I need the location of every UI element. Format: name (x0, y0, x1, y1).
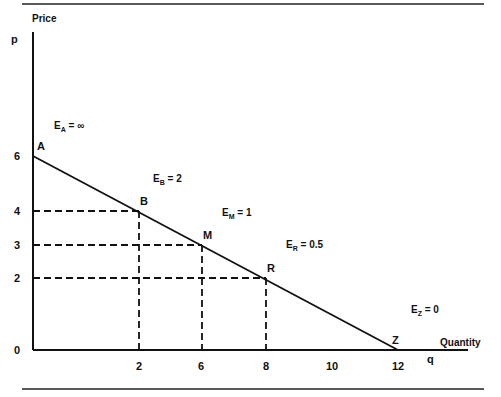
x-tick-label: 10 (326, 360, 338, 372)
demand-curve (33, 156, 398, 350)
y-axis-symbol: p (11, 33, 18, 45)
y-tick-label: 2 (14, 272, 20, 284)
elasticity-label-Z: EZ = 0 (411, 304, 439, 317)
point-label-R: R (267, 262, 275, 274)
x-axis-symbol: q (427, 353, 434, 365)
x-tick-label: 6 (198, 360, 204, 372)
elasticity-label-R: ER = 0.5 (286, 239, 323, 252)
elasticity-label-A: EA = ∞ (54, 120, 84, 133)
elasticity-label-B: EB = 2 (153, 173, 182, 186)
point-label-A: A (37, 140, 45, 152)
point-label-B: B (140, 195, 148, 207)
y-tick-label: 6 (14, 150, 20, 162)
x-tick-label: 12 (392, 360, 404, 372)
origin-label: 0 (14, 344, 20, 356)
point-label-Z: Z (392, 334, 399, 346)
y-axis-label: Price (32, 13, 57, 24)
y-tick-label: 4 (14, 205, 21, 217)
y-tick-label: 3 (14, 239, 20, 251)
elasticity-label-M: EM = 1 (222, 207, 252, 220)
point-label-M: M (203, 229, 212, 241)
x-tick-label: 2 (136, 360, 142, 372)
elasticity-demand-chart: Price p Quantity q 0 26810122346 ABMRZ E… (0, 0, 501, 397)
x-tick-label: 8 (263, 360, 269, 372)
x-axis-label: Quantity (440, 337, 481, 348)
